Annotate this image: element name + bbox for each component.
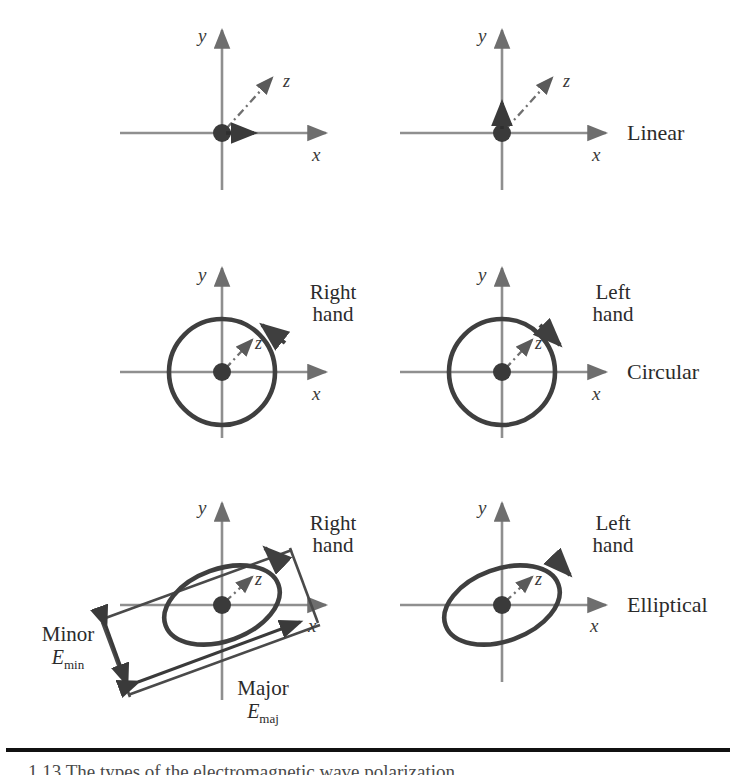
minor-axis-label: Minor Emin: [20, 624, 116, 671]
axis-label-y: y: [478, 498, 486, 517]
axis-label-z: z: [535, 570, 542, 588]
axis-label-z: z: [535, 334, 542, 352]
major-dimension-arrow: [138, 622, 300, 682]
minor-axis-symbol: Emin: [20, 647, 116, 671]
hand-label-line1: Right: [310, 280, 357, 304]
hand-label-left: Left hand: [570, 513, 656, 556]
rotation-arrow-cw: [552, 556, 570, 575]
axis-label-x: x: [312, 384, 320, 403]
hand-label-line1: Right: [310, 511, 357, 535]
axis-label-x: x: [592, 145, 600, 164]
figure-caption: 1.13 The types of the electromagnetic wa…: [28, 761, 718, 775]
major-axis-symbol: Emaj: [213, 701, 313, 725]
axis-label-z: z: [255, 570, 262, 588]
hand-label-right: Right hand: [288, 513, 378, 556]
hand-label-line1: Left: [596, 280, 631, 304]
axis-label-x: x: [592, 384, 600, 403]
major-axis-label: Major Emaj: [213, 678, 313, 725]
hand-label-line2: hand: [570, 304, 656, 325]
axis-label-y: y: [478, 265, 486, 284]
axis-label-x: x: [312, 145, 320, 164]
axis-label-y: y: [198, 498, 206, 517]
type-label-circular: Circular: [627, 361, 699, 383]
type-label-linear: Linear: [627, 122, 684, 144]
minor-axis-name: Minor: [42, 622, 95, 646]
figure-divider-rule: [6, 748, 730, 752]
polarization-figure: y x z y x z Linear y x z Right hand y x …: [0, 0, 736, 775]
axis-label-y: y: [198, 26, 206, 45]
hand-label-line2: hand: [570, 535, 656, 556]
axis-label-y: y: [198, 265, 206, 284]
hand-label-line1: Left: [596, 511, 631, 535]
hand-label-left: Left hand: [570, 282, 656, 325]
axis-label-x: x: [308, 616, 316, 635]
panel-linear-right-axes: [120, 30, 326, 190]
axis-label-z: z: [563, 72, 570, 90]
axis-label-z: z: [255, 334, 262, 352]
panel-linear-left-axes: [400, 30, 606, 190]
hand-label-line2: hand: [288, 304, 378, 325]
hand-label-right: Right hand: [288, 282, 378, 325]
axis-label-x: x: [590, 616, 598, 635]
axis-label-z: z: [283, 72, 290, 90]
hand-label-line2: hand: [288, 535, 378, 556]
axis-label-y: y: [478, 26, 486, 45]
type-label-elliptical: Elliptical: [627, 594, 708, 616]
rotation-arrow-ccw: [265, 548, 284, 566]
major-axis-name: Major: [237, 676, 288, 700]
